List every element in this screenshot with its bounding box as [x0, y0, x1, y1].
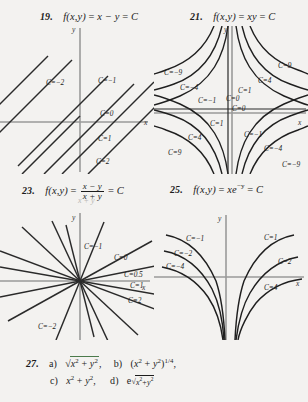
problem-27-part-c-body: x2 + y2, — [66, 375, 98, 386]
problem-19-function-label: f(x,y) — [63, 11, 85, 22]
problem-21-x-axis-label: x — [298, 118, 301, 127]
bleed-through-text: x + y — [78, 196, 95, 205]
problem-23-level-label-3: C=1 — [130, 281, 143, 290]
problem-23-constant: C — [117, 185, 124, 196]
problem-21-level-label-ul-2: C=−1 — [198, 96, 216, 105]
problem-25-level-label-left-1: C=−2 — [174, 249, 192, 258]
problem-19-constant: C — [131, 11, 138, 22]
problem-21-level-label-ur-1: C=4 — [258, 76, 271, 85]
problem-23-statement: 23. f(x,y) = x − y x + y = C — [22, 182, 124, 202]
plus-sign-a: + — [81, 358, 87, 369]
problem-23-equals: = — [70, 185, 76, 196]
problem-21-level-label-ur-0: C=9 — [278, 61, 291, 70]
problem-19-expression: x − y — [97, 11, 119, 22]
textbook-answer-page: 19. f(x,y) = x − y = C y x C=−2 C=−1 — [0, 0, 308, 402]
problem-21-level-label-ll-2: C=9 — [168, 148, 181, 157]
problem-25-contour-svg — [154, 205, 308, 340]
problem-21-function-label: f(x,y) — [213, 11, 235, 22]
problem-19-plot: y x C=−2 C=−1 C=0 C=1 C=2 — [0, 26, 154, 174]
problem-25-expression-exponent: −y — [237, 182, 245, 190]
problem-27-part-b-body: (x2 + y2)1/4, — [130, 358, 176, 369]
problem-25-level-label-left-2: C=−4 — [166, 262, 184, 271]
problem-23-number: 23. — [22, 185, 35, 196]
problem-21-level-label-lr-1: C=−4 — [264, 144, 282, 153]
problem-19-equals-2: = — [122, 11, 128, 22]
problem-19-statement: 19. f(x,y) = x − y = C — [40, 11, 138, 22]
problem-21-equals: = — [238, 11, 244, 22]
problem-21-level-label-ur-2: C=1 — [238, 86, 251, 95]
problem-23-numerator: x − y — [81, 182, 104, 191]
problem-21-plot: y x C=−9 C=−4 C=−1 C=9 C=4 C=1 C=0 C=0 C… — [154, 26, 308, 174]
problem-25-level-label-left-0: C=−1 — [186, 234, 204, 243]
problem-21-level-label-ll-0: C=1 — [210, 119, 223, 128]
problem-23-equals-2: = — [108, 185, 114, 196]
problem-23-y-axis-label: y — [72, 213, 75, 222]
problem-21-y-axis-label: y — [224, 26, 227, 34]
problem-25-equals-2: = — [247, 184, 253, 195]
problem-27-part-c-tag: c) — [50, 375, 58, 386]
problem-19-level-label-2: C=0 — [100, 109, 113, 118]
problem-21-level-label-ul-0: C=−9 — [164, 68, 182, 77]
plus-sign-b: + — [145, 358, 151, 369]
problem-23-level-label-4: C=2 — [128, 296, 141, 305]
problem-21-statement: 21. f(x,y) = xy = C — [190, 11, 275, 22]
problem-23-function-label: f(x,y) — [45, 185, 67, 196]
problem-21-level-label-lr-2: C=−9 — [282, 160, 300, 169]
problem-27-line-2: c) x2 + y2, d) e√x2+y2 — [50, 374, 154, 386]
problem-27-number: 27. — [26, 358, 39, 369]
problem-19-equals: = — [88, 11, 94, 22]
problem-27-part-d-body: e√x2+y2 — [127, 375, 155, 386]
problem-27-part-b-tag: b) — [114, 358, 123, 369]
problem-25-level-label-right-0: C=1 — [264, 233, 277, 242]
problem-25-function-label: f(x,y) — [193, 184, 215, 195]
problem-25-constant: C — [256, 184, 263, 195]
problem-19-level-label-1: C=−1 — [98, 76, 116, 85]
problem-25-number: 25. — [170, 184, 183, 195]
problem-25-y-axis-label: y — [218, 214, 221, 223]
problem-21-level-label-zero-b: C=0 — [232, 104, 245, 113]
problem-21-expression: xy — [247, 11, 257, 22]
problem-21-level-label-ul-1: C=−4 — [180, 83, 198, 92]
contour-lines — [0, 56, 154, 174]
problem-23-plot: y x C=−1 C=0 C=0.5 C=1 C=2 C=−2 — [0, 205, 154, 340]
problem-21-constant: C — [268, 11, 275, 22]
problem-21-equals-2: = — [260, 11, 266, 22]
problem-25-level-label-right-2: C=4 — [264, 283, 277, 292]
problem-27-part-d-tag: d) — [110, 375, 119, 386]
problem-25-level-label-right-1: C=2 — [278, 257, 291, 266]
problem-23-level-label-0: C=−1 — [84, 242, 102, 251]
problem-21-level-label-zero-a: C=0 — [226, 94, 239, 103]
problem-23-level-label-2: C=0.5 — [124, 270, 143, 279]
problem-19-level-label-0: C=−2 — [46, 78, 64, 87]
problem-19-contour-svg — [0, 26, 154, 174]
problem-27-line-1: 27. a) √x2 + y2, b) (x2 + y2)1/4, — [26, 356, 176, 369]
problem-25-x-axis-label: x — [296, 279, 299, 288]
problem-23-level-label-1: C=0 — [114, 253, 127, 262]
problem-19-level-label-3: C=1 — [98, 134, 111, 143]
problem-19-level-label-4: C=2 — [96, 157, 109, 166]
plus-sign-c: + — [77, 375, 83, 386]
problem-19-number: 19. — [40, 11, 53, 22]
problem-21-number: 21. — [190, 11, 203, 22]
problem-25-statement: 25. f(x,y) = xe−y = C — [170, 182, 263, 195]
problem-27-part-a-body: √x2 + y2, — [65, 358, 104, 369]
problem-21-level-label-ll-1: C=4 — [188, 133, 201, 142]
problem-25-plot: y x C=−1 C=−2 C=−4 C=1 C=2 C=4 — [154, 205, 308, 340]
problem-25-equals: = — [218, 184, 224, 195]
problem-27-part-a-tag: a) — [49, 358, 57, 369]
problem-25-expression-base: xe — [227, 184, 237, 195]
problem-19-x-axis-label: x — [144, 118, 147, 127]
problem-19-y-axis-label: y — [72, 26, 75, 34]
problem-21-level-label-lr-0: C=−1 — [244, 130, 262, 139]
problem-23-level-label-5: C=−2 — [38, 322, 56, 331]
